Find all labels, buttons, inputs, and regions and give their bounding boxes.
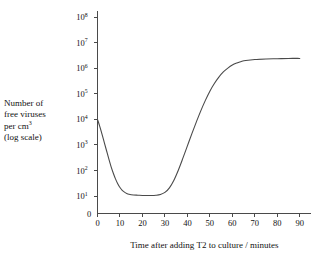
y-axis-title-superscript: 3: [29, 120, 32, 126]
y-tick-exponent: 4: [85, 114, 88, 120]
series-line-free-virus: [98, 58, 300, 195]
y-axis-title-line-3-text: per cm: [4, 121, 29, 131]
x-tick-label: 50: [206, 218, 215, 228]
x-axis-ticks: 0102030405060708090: [95, 214, 304, 229]
y-tick-exponent: 1: [85, 191, 88, 197]
y-tick-label: 107: [76, 37, 88, 48]
y-axis-title-line-1: Number of: [4, 98, 70, 109]
y-axis-ticks: 1011021031041051061071080: [76, 12, 97, 219]
y-tick-label: 104: [76, 114, 88, 125]
y-axis-title: Number of free viruses per cm3 (log scal…: [4, 98, 70, 144]
x-tick-label: 90: [296, 218, 305, 228]
y-tick-exponent: 8: [85, 12, 88, 18]
y-tick-label: 103: [76, 139, 88, 150]
x-tick-label: 0: [95, 218, 99, 228]
y-axis-title-line-4: (log scale): [4, 132, 70, 143]
y-axis-title-line-2: free viruses: [4, 109, 70, 120]
x-tick-label: 80: [273, 218, 282, 228]
data-series-group: [98, 58, 300, 195]
x-tick-label: 10: [116, 218, 125, 228]
y-tick-label-zero: 0: [87, 209, 91, 219]
axes-group: [98, 11, 312, 214]
y-tick-exponent: 5: [85, 88, 88, 94]
x-tick-label: 60: [228, 218, 237, 228]
x-tick-label: 40: [183, 218, 192, 228]
chart-figure: 1011021031041051061071080 01020304050607…: [0, 0, 318, 261]
y-tick-exponent: 7: [85, 37, 88, 43]
x-tick-label: 70: [251, 218, 260, 228]
y-tick-label: 101: [76, 191, 88, 202]
y-tick-label: 108: [76, 12, 88, 23]
x-tick-label: 30: [161, 218, 170, 228]
y-tick-label: 102: [76, 165, 88, 176]
y-tick-exponent: 6: [85, 63, 88, 69]
y-tick-exponent: 2: [85, 165, 88, 171]
x-axis-title: Time after adding T2 to culture / minute…: [130, 240, 279, 250]
x-tick-label: 20: [138, 218, 147, 228]
y-axis-title-line-3: per cm3: [4, 121, 70, 132]
y-tick-label: 106: [76, 63, 88, 74]
y-tick-exponent: 3: [85, 139, 88, 145]
y-tick-label: 105: [76, 88, 88, 99]
